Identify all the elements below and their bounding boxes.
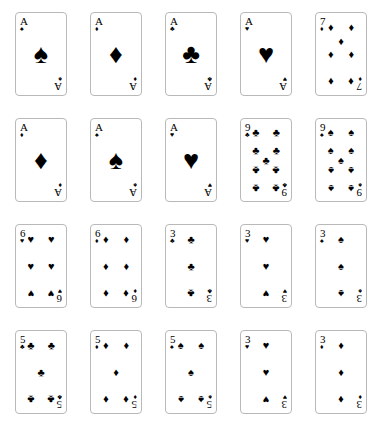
card-index-bottom-right: 7♦ bbox=[351, 76, 362, 92]
card-pip-clubs-icon: ♣ bbox=[252, 183, 259, 194]
card-pip-diamonds-icon: ♦ bbox=[103, 393, 109, 404]
card-index-bottom-right: A♠ bbox=[51, 76, 62, 92]
card-pip-hearts-icon: ♥ bbox=[263, 234, 270, 245]
card-pip-hearts-icon: ♥ bbox=[48, 261, 55, 272]
playing-card-3-clubs[interactable]: 3♣♣♣♣3♣ bbox=[165, 224, 217, 308]
playing-card-5-diamonds[interactable]: 5♦♦♦♦♦♦5♦ bbox=[90, 330, 142, 414]
card-pip-clubs-icon: ♣ bbox=[182, 41, 200, 68]
card-pip-clubs-icon: ♣ bbox=[48, 340, 55, 351]
card-pip-clubs-icon: ♣ bbox=[27, 340, 34, 351]
card-pip-hearts-icon: ♥ bbox=[263, 340, 270, 351]
playing-card-a-spades[interactable]: A♠♠A♠ bbox=[90, 118, 142, 202]
card-rank-label: 3 bbox=[351, 400, 362, 410]
card-pip-spades-icon: ♠ bbox=[198, 340, 204, 351]
card-rank-label: A bbox=[51, 82, 62, 92]
card-pip-spades-icon: ♠ bbox=[178, 393, 184, 404]
playing-card-5-clubs[interactable]: 5♣♣♣♣♣♣5♣ bbox=[15, 330, 67, 414]
card-pip-hearts-icon: ♥ bbox=[183, 147, 199, 174]
playing-card-a-diamonds[interactable]: A♦♦A♦ bbox=[15, 118, 67, 202]
playing-card-3-diamonds[interactable]: 3♦♦♦♦3♦ bbox=[315, 330, 367, 414]
playing-card-a-spades[interactable]: A♠♠A♠ bbox=[15, 12, 67, 96]
card-rank-label: A bbox=[276, 82, 287, 92]
card-rank-label: 5 bbox=[126, 400, 137, 410]
card-pip-spades-icon: ♠ bbox=[178, 340, 184, 351]
card-pip-clubs-icon: ♣ bbox=[187, 234, 194, 245]
card-pip-hearts-icon: ♥ bbox=[27, 234, 34, 245]
card-pip-clubs-icon: ♣ bbox=[187, 287, 194, 298]
card-rank-label: 3 bbox=[201, 294, 212, 304]
playing-card-3-hearts[interactable]: 3♥♥♥♥3♥ bbox=[240, 330, 292, 414]
card-pip-diamonds-icon: ♦ bbox=[103, 287, 109, 298]
card-index-bottom-right: A♦ bbox=[126, 76, 137, 92]
card-pip-hearts-icon: ♥ bbox=[263, 287, 270, 298]
card-pip-hearts-icon: ♥ bbox=[48, 234, 55, 245]
card-pip-spades-icon: ♠ bbox=[348, 144, 354, 155]
card-index-bottom-right: 5♣ bbox=[51, 394, 62, 410]
card-rank-label: 3 bbox=[276, 400, 287, 410]
card-index-bottom-right: 3♣ bbox=[201, 288, 212, 304]
card-suit-clubs-icon: ♣ bbox=[51, 394, 62, 401]
playing-card-9-spades[interactable]: 9♠♠♠♠♠♠♠♠♠♠9♠ bbox=[315, 118, 367, 202]
card-pip-clubs-icon: ♣ bbox=[37, 367, 44, 378]
card-pip-diamonds-icon: ♦ bbox=[103, 261, 109, 272]
playing-card-3-hearts[interactable]: 3♥♥♥♥3♥ bbox=[240, 224, 292, 308]
card-pip-spades-icon: ♠ bbox=[348, 126, 354, 137]
card-suit-clubs-icon: ♣ bbox=[276, 182, 287, 189]
card-pip-diamonds-icon: ♦ bbox=[113, 367, 119, 378]
card-pip-clubs-icon: ♣ bbox=[273, 165, 280, 176]
card-rank-label: 6 bbox=[51, 294, 62, 304]
playing-card-a-diamonds[interactable]: A♦♦A♦ bbox=[90, 12, 142, 96]
card-pip-clubs-icon: ♣ bbox=[273, 126, 280, 137]
card-index-bottom-right: 5♦ bbox=[126, 394, 137, 410]
card-pip-hearts-icon: ♥ bbox=[258, 41, 274, 68]
card-pip-diamonds-icon: ♦ bbox=[328, 49, 334, 60]
playing-card-7-diamonds[interactable]: 7♦♦♦♦♦♦♦♦7♦ bbox=[315, 12, 367, 96]
card-pip-diamonds-icon: ♦ bbox=[34, 147, 48, 174]
playing-card-3-spades[interactable]: 3♠♠♠♠3♠ bbox=[315, 224, 367, 308]
playing-card-5-spades[interactable]: 5♠♠♠♠♠♠5♠ bbox=[165, 330, 217, 414]
card-index-bottom-right: 3♠ bbox=[351, 288, 362, 304]
card-rank-label: A bbox=[201, 82, 212, 92]
card-rank-label: 9 bbox=[276, 188, 287, 198]
card-rank-label: 5 bbox=[201, 400, 212, 410]
playing-card-6-diamonds[interactable]: 6♦♦♦♦♦♦♦6♦ bbox=[90, 224, 142, 308]
card-pip-spades-icon: ♠ bbox=[34, 41, 48, 68]
card-index-bottom-right: 6♥ bbox=[51, 288, 62, 304]
card-pip-clubs-icon: ♣ bbox=[187, 261, 194, 272]
playing-card-a-clubs[interactable]: A♣♣A♣ bbox=[165, 12, 217, 96]
card-pip-hearts-icon: ♥ bbox=[27, 261, 34, 272]
card-pip-diamonds-icon: ♦ bbox=[348, 22, 354, 33]
card-pip-diamonds-icon: ♦ bbox=[348, 49, 354, 60]
card-pip-diamonds-icon: ♦ bbox=[103, 234, 109, 245]
card-pip-hearts-icon: ♥ bbox=[27, 287, 34, 298]
card-index-bottom-right: 9♠ bbox=[351, 182, 362, 198]
card-pip-diamonds-icon: ♦ bbox=[123, 261, 129, 272]
playing-card-a-hearts[interactable]: A♥♥A♥ bbox=[165, 118, 217, 202]
playing-card-9-clubs[interactable]: 9♣♣♣♣♣♣♣♣♣♣9♣ bbox=[240, 118, 292, 202]
card-suit-clubs-icon: ♣ bbox=[201, 288, 212, 295]
card-rank-label: A bbox=[51, 188, 62, 198]
card-index-bottom-right: 3♦ bbox=[351, 394, 362, 410]
card-rank-label: 5 bbox=[51, 400, 62, 410]
card-index-bottom-right: 6♦ bbox=[126, 288, 137, 304]
card-index-bottom-right: 3♥ bbox=[276, 394, 287, 410]
card-pip-clubs-icon: ♣ bbox=[252, 165, 259, 176]
card-pip-spades-icon: ♠ bbox=[348, 165, 354, 176]
card-pip-clubs-icon: ♣ bbox=[252, 144, 259, 155]
card-pip-clubs-icon: ♣ bbox=[252, 126, 259, 137]
card-index-bottom-right: A♠ bbox=[126, 182, 137, 198]
card-pip-diamonds-icon: ♦ bbox=[103, 340, 109, 351]
card-index-bottom-right: 5♠ bbox=[201, 394, 212, 410]
card-pip-spades-icon: ♠ bbox=[338, 234, 344, 245]
playing-card-6-hearts[interactable]: 6♥♥♥♥♥♥♥6♥ bbox=[15, 224, 67, 308]
card-rank-label: A bbox=[201, 188, 212, 198]
card-pip-hearts-icon: ♥ bbox=[263, 261, 270, 272]
card-rank-label: 3 bbox=[351, 294, 362, 304]
card-pip-diamonds-icon: ♦ bbox=[338, 367, 344, 378]
card-pip-diamonds-icon: ♦ bbox=[123, 340, 129, 351]
card-pip-hearts-icon: ♥ bbox=[263, 393, 270, 404]
card-index-bottom-right: 3♥ bbox=[276, 288, 287, 304]
card-pip-diamonds-icon: ♦ bbox=[338, 393, 344, 404]
playing-card-a-hearts[interactable]: A♥♥A♥ bbox=[240, 12, 292, 96]
card-pip-spades-icon: ♠ bbox=[188, 367, 194, 378]
